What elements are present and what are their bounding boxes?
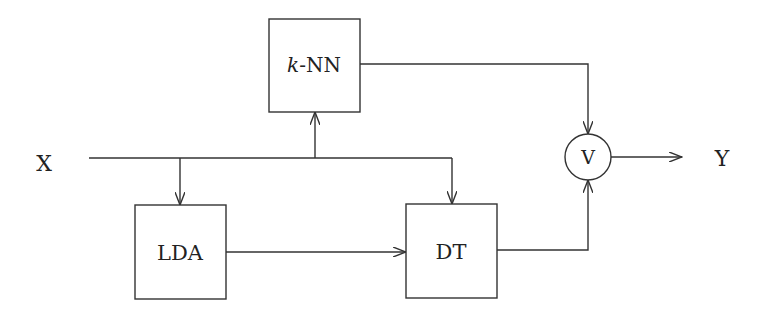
output-label: Y: [714, 146, 730, 171]
ensemble-diagram: X Y k-NN LDA DT V: [0, 0, 768, 314]
edge-knn-v: [360, 64, 588, 134]
lda-label: LDA: [157, 241, 204, 265]
dt-label: DT: [436, 240, 467, 264]
knn-label: k-NN: [287, 53, 341, 77]
edge-dt-v: [497, 180, 588, 250]
input-label: X: [36, 151, 52, 176]
vote-label: V: [580, 146, 595, 168]
